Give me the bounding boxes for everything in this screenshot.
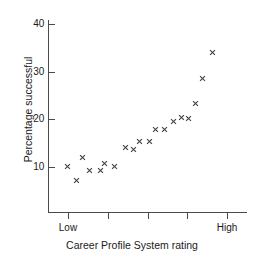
data-point-marker [130,146,137,153]
y-tick-label: 40 [20,19,44,29]
data-point-marker [101,160,108,167]
y-axis-line [48,20,49,213]
y-axis-title: Percentage successful [23,30,34,190]
data-point-marker [111,163,118,170]
data-point-marker [79,154,86,161]
data-point-marker [185,115,192,122]
x-tick-label-low: Low [44,222,92,233]
y-tick [49,72,55,73]
y-tick [49,119,55,120]
data-point-marker [146,138,153,145]
x-tick [68,213,69,219]
data-point-marker [199,75,206,82]
y-tick [49,24,55,25]
x-tick [148,213,149,219]
data-point-marker [122,144,129,151]
data-point-marker [152,126,159,133]
x-tick-label-high: High [203,222,251,233]
data-point-marker [64,163,71,170]
y-tick [49,167,55,168]
data-point-marker [97,167,104,174]
x-tick [108,213,109,219]
data-point-marker [192,100,199,107]
x-tick [227,213,228,219]
data-point-marker [170,118,177,125]
y-tick-label-text: 40 [22,19,44,29]
x-tick [187,213,188,219]
scatter-chart: 10203040 LowHigh Percentage successful C… [0,0,264,266]
data-point-marker [178,114,185,121]
x-axis-title: Career Profile System rating [0,240,264,251]
data-point-marker [73,177,80,184]
data-point-marker [86,167,93,174]
data-point-marker [209,49,216,56]
data-point-marker [161,126,168,133]
data-point-marker [136,138,143,145]
